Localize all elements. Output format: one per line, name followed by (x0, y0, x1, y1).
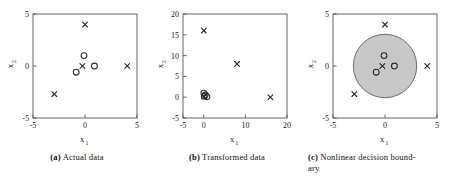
ytick-label-b-1: 0 (175, 93, 179, 102)
marker-o (81, 53, 87, 59)
ytick-label-c-2: 5 (325, 10, 329, 19)
marker-x (201, 28, 206, 33)
xtick-label-b-3: 20 (283, 121, 291, 130)
caption-c-text-line2: ary (308, 163, 319, 173)
svg-text:1: 1 (236, 140, 239, 146)
marker-o (92, 63, 98, 69)
markers-x-a (52, 22, 130, 96)
caption-c-text: Nonlinear decision bound- (320, 152, 415, 162)
plot-area-a: -5 0 5 -5 0 5 x 1 x 2 (2, 0, 152, 150)
caption-b-letter: (b) (189, 152, 200, 162)
svg-text:2: 2 (311, 60, 317, 63)
ytick-label-b-0: -5 (172, 114, 179, 123)
ytick-label-a-0: -5 (22, 114, 29, 123)
svg-text:x: x (80, 134, 85, 144)
panel-c-nonlinear-decision-boundary: -5 0 5 -5 0 5 x 1 x 2 (302, 0, 452, 193)
svg-text:2: 2 (161, 60, 167, 63)
xaxis-label-c: x 1 (380, 134, 389, 146)
xtick-label-a-0: -5 (30, 121, 37, 130)
xtick-label-c-0: -5 (330, 121, 337, 130)
ytick-label-b-5: 20 (171, 10, 179, 19)
xtick-label-a-1: 0 (83, 121, 87, 130)
xtick-label-b-0: -5 (180, 121, 187, 130)
caption-b: (b) Transformed data (152, 152, 302, 163)
xtick-label-c-1: 0 (383, 121, 387, 130)
caption-a-text: Actual data (63, 152, 104, 162)
caption-b-text: Transformed data (202, 152, 265, 162)
marker-x (83, 22, 88, 27)
marker-x (235, 62, 240, 67)
xaxis-label-a: x 1 (80, 134, 89, 146)
marker-x (80, 64, 85, 69)
svg-text:1: 1 (86, 140, 89, 146)
figure-three-panel-svm: -5 0 5 -5 0 5 x 1 x 2 (0, 0, 461, 193)
xtick-label-b-2: 10 (241, 121, 249, 130)
panel-a-actual-data: -5 0 5 -5 0 5 x 1 x 2 (2, 0, 152, 193)
caption-a: (a) Actual data (2, 152, 152, 163)
marker-x (352, 92, 357, 97)
xtick-label-c-2: 5 (435, 121, 439, 130)
ytick-label-b-2: 5 (175, 72, 179, 81)
marker-x (52, 92, 57, 97)
xaxis-label-b: x 1 (230, 134, 239, 146)
ytick-label-c-1: 0 (325, 62, 329, 71)
xtick-label-a-2: 5 (135, 121, 139, 130)
svg-text:x: x (230, 134, 235, 144)
ytick-label-c-0: -5 (322, 114, 329, 123)
caption-a-letter: (a) (50, 152, 60, 162)
markers-o-a (73, 53, 97, 75)
ytick-label-a-1: 0 (25, 62, 29, 71)
ytick-label-b-4: 15 (171, 31, 179, 40)
svg-text:x: x (380, 134, 385, 144)
plot-area-c: -5 0 5 -5 0 5 x 1 x 2 (302, 0, 452, 150)
markers-x-b (201, 28, 272, 99)
panel-b-transformed-data: -5 0 10 20 -5 0 5 10 15 20 x 1 x 2 (152, 0, 302, 193)
caption-c: (c) Nonlinear decision bound- ary (302, 152, 452, 173)
plot-area-b: -5 0 10 20 -5 0 5 10 15 20 x 1 x 2 (152, 0, 302, 150)
ytick-label-a-2: 5 (25, 10, 29, 19)
marker-x (125, 64, 130, 69)
marker-o (73, 69, 79, 75)
caption-c-letter: (c) (308, 152, 318, 162)
axes-frame-a (33, 14, 137, 118)
scatter-plot-a: -5 0 5 -5 0 5 x 1 x 2 (2, 0, 152, 150)
svg-text:1: 1 (386, 140, 389, 146)
decision-region-circle (353, 34, 416, 97)
yaxis-label-a: x 2 (5, 60, 17, 68)
marker-x (383, 22, 388, 27)
scatter-plot-c: -5 0 5 -5 0 5 x 1 x 2 (302, 0, 452, 150)
yaxis-label-b: x 2 (155, 60, 167, 68)
markers-o-b (201, 90, 210, 99)
svg-text:2: 2 (11, 60, 17, 63)
marker-x (268, 95, 273, 100)
marker-x (425, 64, 430, 69)
ytick-label-b-3: 10 (171, 52, 179, 61)
scatter-plot-b: -5 0 10 20 -5 0 5 10 15 20 x 1 x 2 (152, 0, 302, 150)
yaxis-label-c: x 2 (305, 60, 317, 68)
xtick-label-b-1: 0 (202, 121, 206, 130)
